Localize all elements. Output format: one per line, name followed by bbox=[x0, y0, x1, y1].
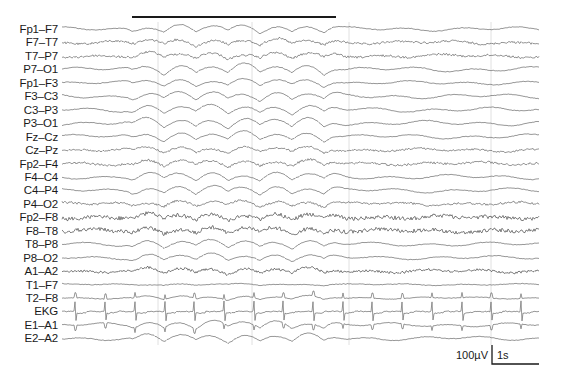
eeg-trace bbox=[62, 320, 539, 333]
eeg-trace bbox=[62, 104, 539, 115]
eeg-trace-canvas bbox=[0, 0, 562, 380]
channel-label: E2–A2 bbox=[24, 332, 58, 344]
amplitude-scale-label: 100µV bbox=[448, 349, 488, 361]
channel-label: Fz–Cz bbox=[26, 131, 58, 143]
channel-label: EKG bbox=[34, 305, 58, 317]
channel-label: F4–C4 bbox=[24, 171, 58, 183]
eeg-trace bbox=[62, 51, 539, 60]
eeg-trace bbox=[62, 63, 539, 76]
eeg-trace bbox=[62, 185, 539, 195]
eeg-trace bbox=[62, 200, 539, 208]
eeg-trace bbox=[62, 146, 539, 154]
channel-label: P3–O1 bbox=[23, 117, 58, 129]
eeg-trace bbox=[62, 291, 539, 300]
channel-label: T7–P7 bbox=[25, 50, 58, 62]
eeg-trace bbox=[62, 37, 539, 47]
eeg-trace bbox=[62, 91, 539, 101]
eeg-trace bbox=[62, 159, 539, 168]
eeg-trace bbox=[62, 117, 539, 129]
channel-label: A1–A2 bbox=[24, 265, 58, 277]
eeg-trace bbox=[62, 253, 539, 262]
channel-label: Fp1–F3 bbox=[20, 77, 58, 89]
channel-label: Fp2–F4 bbox=[20, 158, 58, 170]
channel-label: E1–A1 bbox=[24, 319, 58, 331]
channel-label: P8–O2 bbox=[23, 252, 58, 264]
channel-label: Fp1–F7 bbox=[20, 23, 58, 35]
eeg-trace bbox=[62, 25, 539, 34]
eeg-trace bbox=[62, 212, 539, 222]
channel-label: P7–O1 bbox=[23, 63, 58, 75]
eeg-trace bbox=[62, 283, 539, 286]
channel-label: P4–O2 bbox=[23, 198, 58, 210]
channel-label: F7–T7 bbox=[26, 36, 58, 48]
channel-label: T8–P8 bbox=[25, 238, 58, 250]
time-scale-label: 1s bbox=[497, 349, 509, 361]
eeg-trace bbox=[62, 226, 539, 236]
channel-label: F3–C3 bbox=[24, 90, 58, 102]
eeg-trace bbox=[62, 131, 539, 143]
channel-label: T1–F7 bbox=[26, 279, 58, 291]
eeg-trace bbox=[62, 266, 539, 275]
channel-label: T2–F8 bbox=[26, 292, 58, 304]
eeg-trace bbox=[62, 301, 539, 321]
eeg-trace bbox=[62, 239, 539, 249]
eeg-trace bbox=[62, 333, 539, 344]
eeg-trace bbox=[62, 78, 539, 87]
channel-label: Fp2–F8 bbox=[20, 211, 58, 223]
eeg-trace bbox=[62, 172, 539, 181]
channel-label: C3–P3 bbox=[24, 104, 58, 116]
channel-label: F8–T8 bbox=[26, 225, 58, 237]
channel-label: C4–P4 bbox=[24, 184, 58, 196]
channel-label: Cz–Pz bbox=[25, 144, 58, 156]
